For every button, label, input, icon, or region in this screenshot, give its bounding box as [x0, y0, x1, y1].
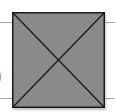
image-placeholder-box — [12, 12, 105, 108]
crossed-box-icon — [12, 12, 105, 108]
partial-text-glyph: ) — [0, 68, 2, 84]
